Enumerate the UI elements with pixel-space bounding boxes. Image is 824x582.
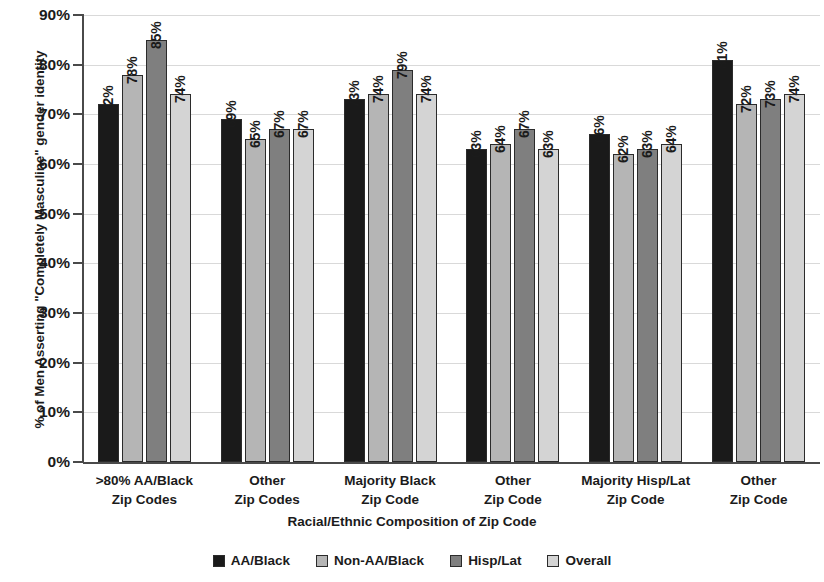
legend-label: Non-AA/Black <box>334 553 424 568</box>
y-axis-tick <box>73 213 82 215</box>
bar-value-label: 74% <box>172 76 188 103</box>
bar <box>221 119 242 462</box>
y-axis-tick <box>73 163 82 165</box>
x-axis-category-label: OtherZip Code <box>685 471 824 509</box>
y-axis-line <box>82 14 84 463</box>
bar <box>712 60 733 462</box>
bar <box>784 94 805 462</box>
legend-swatch-icon <box>547 555 559 567</box>
bar <box>466 149 487 462</box>
gridline <box>83 164 820 165</box>
x-axis-line <box>83 462 820 464</box>
y-axis-tick-label: 30% <box>4 304 70 322</box>
bar-chart: % of Men Asserting "Completely Masculine… <box>0 0 824 582</box>
legend-item: Hisp/Lat <box>450 553 521 568</box>
bar-value-label: 69% <box>223 101 239 128</box>
bar-value-label: 63% <box>639 131 655 158</box>
bar <box>170 94 191 462</box>
bar <box>146 40 167 462</box>
bar <box>637 149 658 462</box>
plot-area: 72%78%85%74%69%65%67%67%73%74%79%74%63%6… <box>83 15 820 462</box>
gridline <box>83 214 820 215</box>
y-axis-tick-label: 80% <box>4 56 70 74</box>
bar <box>392 70 413 462</box>
legend-swatch-icon <box>213 555 225 567</box>
bar <box>661 144 682 462</box>
y-axis-tick <box>73 312 82 314</box>
bar-value-label: 74% <box>418 76 434 103</box>
y-axis-tick <box>73 113 82 115</box>
bar-value-label: 67% <box>271 111 287 138</box>
x-axis-category-line: Zip Code <box>685 490 824 509</box>
bar-value-label: 64% <box>663 126 679 153</box>
bar <box>613 154 634 462</box>
bar <box>538 149 559 462</box>
bar-value-label: 74% <box>786 76 802 103</box>
gridline <box>83 363 820 364</box>
bar <box>514 129 535 462</box>
bar-value-label: 81% <box>714 41 730 68</box>
bar-value-label: 74% <box>370 76 386 103</box>
y-axis-tick-label: 70% <box>4 105 70 123</box>
bar-value-label: 66% <box>591 116 607 143</box>
bar-value-label: 64% <box>492 126 508 153</box>
legend-label: AA/Black <box>231 553 290 568</box>
bar-value-label: 72% <box>738 86 754 113</box>
gridline <box>83 263 820 264</box>
y-axis-tick <box>73 461 82 463</box>
y-axis-tick-label: 10% <box>4 403 70 421</box>
legend-swatch-icon <box>316 555 328 567</box>
bar-value-label: 73% <box>762 81 778 108</box>
bar-value-label: 67% <box>516 111 532 138</box>
y-axis-tick-labels: 90%80%70%60%50%40%30%20%10%0% <box>0 0 70 582</box>
y-axis-tick-label: 60% <box>4 155 70 173</box>
bar <box>490 144 511 462</box>
bar-value-label: 63% <box>540 131 556 158</box>
y-axis-tick <box>73 64 82 66</box>
legend-item: Non-AA/Black <box>316 553 424 568</box>
y-axis-tick-label: 20% <box>4 354 70 372</box>
gridline <box>83 15 820 16</box>
bar <box>293 129 314 462</box>
bar <box>416 94 437 462</box>
gridline <box>83 313 820 314</box>
legend-swatch-icon <box>450 555 462 567</box>
bar-value-label: 72% <box>100 86 116 113</box>
legend-item: Overall <box>547 553 611 568</box>
y-axis-tick <box>73 262 82 264</box>
bar-value-label: 67% <box>295 111 311 138</box>
bar-value-label: 65% <box>247 121 263 148</box>
x-axis-category-line: Other <box>685 471 824 490</box>
bar <box>269 129 290 462</box>
bar-value-label: 73% <box>346 81 362 108</box>
bar <box>245 139 266 462</box>
y-axis-tick <box>73 362 82 364</box>
y-axis-tick-label: 50% <box>4 205 70 223</box>
bar-value-label: 62% <box>615 136 631 163</box>
y-axis-tick <box>73 14 82 16</box>
bar <box>122 75 143 462</box>
bar <box>344 99 365 462</box>
bar-value-label: 85% <box>148 21 164 48</box>
bar-value-label: 63% <box>468 131 484 158</box>
bar <box>98 104 119 462</box>
y-axis-tick-label: 90% <box>4 6 70 24</box>
legend-label: Overall <box>565 553 611 568</box>
bar-value-label: 78% <box>124 56 140 83</box>
bar <box>736 104 757 462</box>
bar-value-label: 79% <box>394 51 410 78</box>
y-axis-tick-label: 0% <box>4 453 70 471</box>
y-axis-tick <box>73 411 82 413</box>
bar <box>589 134 610 462</box>
bar <box>760 99 781 462</box>
y-axis-tick-label: 40% <box>4 254 70 272</box>
gridline <box>83 114 820 115</box>
bar <box>368 94 389 462</box>
legend: AA/BlackNon-AA/BlackHisp/LatOverall <box>0 553 824 568</box>
x-axis-title: Racial/Ethnic Composition of Zip Code <box>0 514 824 529</box>
gridline <box>83 412 820 413</box>
gridline <box>83 65 820 66</box>
legend-label: Hisp/Lat <box>468 553 521 568</box>
legend-item: AA/Black <box>213 553 290 568</box>
